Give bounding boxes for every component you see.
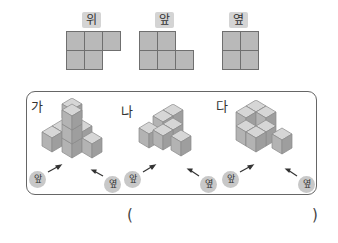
answer-close-paren: ) <box>312 206 318 224</box>
front-marker-da: 앞 <box>222 171 239 188</box>
front-marker-na: 앞 <box>124 171 141 188</box>
side-marker-da: 옆 <box>298 176 315 193</box>
front-marker-ga: 앞 <box>29 171 46 188</box>
side-marker-na: 옆 <box>200 176 217 193</box>
answer-field[interactable] <box>135 206 310 224</box>
side-marker-ga: 옆 <box>104 176 121 193</box>
answer-open-paren: ( <box>127 206 133 224</box>
